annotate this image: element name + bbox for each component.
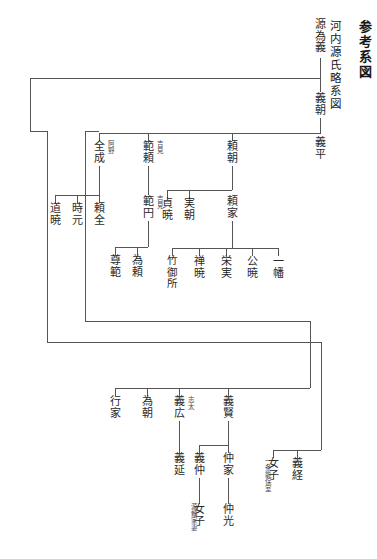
node-nakamitsu: 仲光 (222, 503, 233, 526)
edge-noriyori-stem (148, 166, 149, 195)
edge-tameyoshi-stem (320, 58, 321, 80)
edge-yoshikata-children-bar (199, 445, 228, 446)
edge-left-drop-inner (85, 131, 86, 321)
node-yoshitsune: 義経 (291, 457, 302, 480)
edge-yoshitomo-children-bar (99, 133, 321, 134)
edge-zenjo-stem (99, 166, 100, 195)
node-yoshitomo: 義朝 (314, 92, 325, 115)
edge-yoshikata-stem (228, 421, 229, 445)
edge-nanen-stem (148, 221, 149, 247)
node-yoriie: 頼家 (226, 195, 237, 218)
node-kugyo: 公暁 (246, 255, 257, 278)
node-dogyo: 道暁 (49, 202, 60, 225)
node-zenjo: 全成 (93, 140, 104, 163)
edge-left-jog-2 (85, 131, 99, 132)
annotation-joshi-ichijoyoshiyasu: 一条能保室 (263, 457, 270, 492)
edge-left-jog-1 (30, 131, 47, 132)
edge-yoshihiro-stem (179, 421, 180, 453)
node-nakaie: 仲家 (222, 452, 233, 475)
edge-tameyoshi-left-drop-1 (30, 78, 31, 131)
edge-yoshitomo-stem (320, 118, 321, 133)
edge-tameyoshi-children-bar (115, 388, 310, 389)
node-eijitsu: 栄実 (220, 255, 231, 278)
edge-left-return-bar-outer (47, 342, 321, 343)
node-yukiie: 行家 (109, 395, 120, 418)
node-jogyo: 貞暁 (161, 197, 172, 220)
annotation-joshi-minamoto-yoriie-wife: 源頼家妻 (189, 503, 196, 531)
node-yoritomo: 頼朝 (226, 140, 237, 163)
edge-yoshitsune-group-drop (321, 342, 322, 450)
chart-title-reference: 参考系図 (357, 20, 371, 80)
node-yoshihira: 義平 (314, 136, 325, 159)
node-tameyori: 為頼 (131, 254, 142, 277)
chart-title-main: 河内源氏略系図 (329, 20, 341, 111)
node-takenogosho: 竹御所 (166, 255, 177, 290)
edge-yoshinaka-stem (199, 478, 200, 504)
node-ichiman: 一幡 (272, 255, 283, 278)
annotation-noriyori-yoshimi: 吉見 (155, 140, 162, 154)
node-yoshinobu: 義延 (173, 452, 184, 475)
edge-tameyoshi-children-drop (310, 321, 311, 388)
edge-yoriie-stem (232, 221, 233, 248)
node-noriyori: 範頼 (142, 140, 153, 163)
edge-yoritomo-children-bar (167, 190, 232, 191)
node-yoshikata: 義賢 (222, 395, 233, 418)
edge-yoritomo-stem (232, 166, 233, 190)
edge-left-drop-outer (47, 131, 48, 342)
edge-to-yoshitomo (320, 78, 321, 92)
annotation-zenjo-ano: 阿野 (106, 140, 113, 154)
genealogy-chart: 参考系図 河内源氏略系図 源為義 義朝 義平 頼朝 範頼 吉見 全成 阿野 道暁… (0, 0, 377, 559)
edge-nakaie-stem (228, 478, 229, 504)
node-yoshinaka: 義仲 (193, 452, 204, 475)
node-sanetomo: 実朝 (183, 197, 194, 220)
node-zengyo: 禅暁 (193, 255, 204, 278)
edge-tameyoshi-bar-top (30, 78, 321, 79)
node-tokimoto: 時元 (71, 202, 82, 225)
node-sonhan: 尊範 (109, 254, 120, 277)
node-tametomo: 為朝 (141, 395, 152, 418)
node-nanen: 範円 (142, 195, 153, 218)
edge-yoriie-children-bar (172, 248, 278, 249)
edge-nanen-children-bar (115, 247, 148, 248)
annotation-yoshihiro-shida: 志太 (186, 396, 193, 410)
node-yoshihiro: 義広 (173, 395, 184, 418)
node-minamoto-no-tameyoshi: 源為義 (314, 18, 325, 53)
edge-left-return-bar-inner (85, 321, 310, 322)
node-raizen: 頼全 (93, 202, 104, 225)
